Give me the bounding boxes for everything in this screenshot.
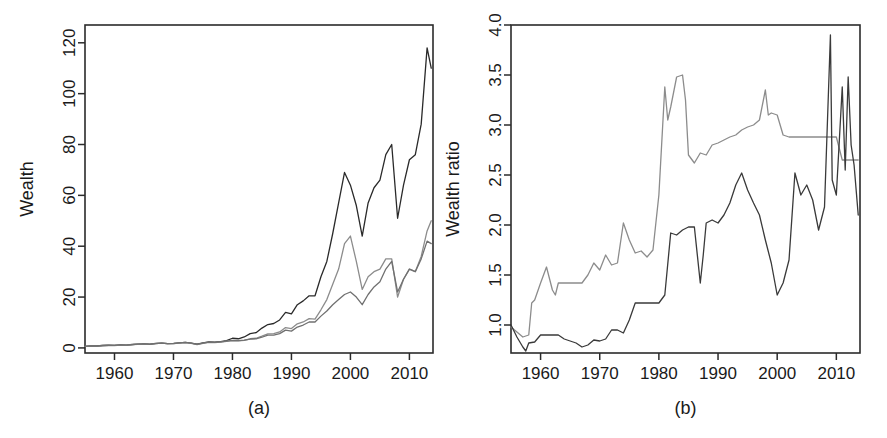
panel-a-chart: 196019701980199020002010020406080100120W… <box>0 0 447 438</box>
y-tick-label-a-5: 100 <box>60 79 79 107</box>
y-axis-title-a: Wealth <box>17 161 37 217</box>
x-tick-label-b-1: 1970 <box>581 364 619 383</box>
panel-a-plot-area: 196019701980199020002010020406080100120W… <box>17 25 433 418</box>
x-tick-label-b-0: 1960 <box>522 364 560 383</box>
panel-b-plot-area: 1960197019801990200020101.01.52.02.53.03… <box>443 13 860 418</box>
y-tick-label-b-4: 3.0 <box>486 113 505 137</box>
series-b-gray-series-upper <box>511 75 858 337</box>
y-tick-label-a-0: 0 <box>60 343 79 352</box>
plot-frame-a <box>85 25 433 353</box>
y-tick-label-b-5: 3.5 <box>486 63 505 87</box>
figure-container: 196019701980199020002010020406080100120W… <box>0 0 887 438</box>
panel-caption-a: (a) <box>248 398 270 418</box>
panel-b-chart: 1960197019801990200020101.01.52.02.53.03… <box>440 0 887 438</box>
y-axis-title-b: Wealth ratio <box>443 141 463 237</box>
panel-b: 1960197019801990200020101.01.52.02.53.03… <box>440 0 887 438</box>
y-tick-label-b-3: 2.5 <box>486 163 505 187</box>
y-tick-label-a-1: 20 <box>60 288 79 307</box>
x-tick-label-a-0: 1960 <box>96 364 134 383</box>
x-tick-label-a-2: 1980 <box>214 364 252 383</box>
y-tick-label-b-6: 4.0 <box>486 13 505 37</box>
y-tick-label-b-1: 1.5 <box>486 263 505 287</box>
y-tick-label-b-0: 1.0 <box>486 313 505 337</box>
x-tick-label-a-5: 2010 <box>390 364 428 383</box>
y-tick-label-a-2: 40 <box>60 237 79 256</box>
x-tick-label-b-3: 1990 <box>699 364 737 383</box>
x-tick-label-b-4: 2000 <box>758 364 796 383</box>
series-a-black-series <box>85 48 431 347</box>
y-tick-label-a-3: 60 <box>60 186 79 205</box>
x-tick-label-b-2: 1980 <box>640 364 678 383</box>
series-a-gray-series-1 <box>85 221 431 347</box>
x-tick-label-a-3: 1990 <box>273 364 311 383</box>
y-tick-label-a-6: 120 <box>60 29 79 57</box>
y-tick-label-b-2: 2.0 <box>486 213 505 237</box>
y-tick-label-a-4: 80 <box>60 135 79 154</box>
x-tick-label-a-4: 2000 <box>332 364 370 383</box>
panel-caption-b: (b) <box>675 398 697 418</box>
panel-a: 196019701980199020002010020406080100120W… <box>0 0 447 438</box>
series-b-black-series-lower <box>511 35 858 351</box>
x-tick-label-b-5: 2010 <box>817 364 855 383</box>
x-tick-label-a-1: 1970 <box>155 364 193 383</box>
